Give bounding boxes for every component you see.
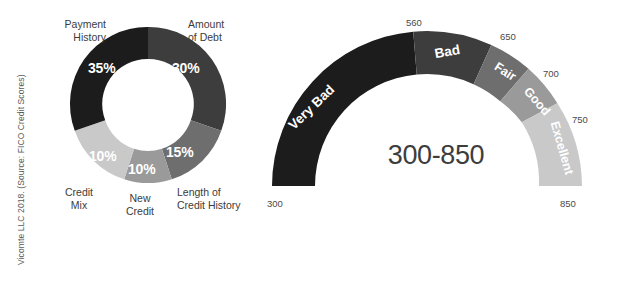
credit-score-range-gauge: Very Bad Bad Fair Good Excellent 300-850… xyxy=(255,0,618,240)
donut-percent-amount-of-debt: 30% xyxy=(172,60,199,76)
gauge-center-value: 300-850 xyxy=(341,140,531,171)
donut-percent-payment-history: 35% xyxy=(88,60,115,76)
donut-label-payment-history-line1: Payment xyxy=(14,18,106,31)
donut-label-credit-mix: Credit Mix xyxy=(48,186,110,211)
donut-percent-credit-mix: 10% xyxy=(89,148,116,164)
donut-percent-new-credit: 10% xyxy=(128,161,155,177)
donut-percent-length-of-credit-history: 15% xyxy=(166,144,193,160)
gauge-tick-850: 850 xyxy=(560,198,576,209)
donut-label-credit-mix-line2: Mix xyxy=(48,199,110,212)
donut-label-new-credit-line2: Credit xyxy=(111,205,169,218)
gauge-tick-700: 700 xyxy=(543,68,559,79)
infographic-canvas: Vicomte LLC 2018. (Source: FICO Credit S… xyxy=(0,0,618,285)
gauge-tick-560: 560 xyxy=(406,17,422,28)
donut-label-payment-history: Payment History xyxy=(14,18,106,43)
gauge-tick-750: 750 xyxy=(572,114,588,125)
gauge-tick-650: 650 xyxy=(500,31,516,42)
donut-label-credit-mix-line1: Credit xyxy=(48,186,110,199)
donut-label-payment-history-line2: History xyxy=(14,31,106,44)
donut-label-new-credit: New Credit xyxy=(111,192,169,217)
donut-label-new-credit-line1: New xyxy=(111,192,169,205)
gauge-tick-300: 300 xyxy=(267,198,283,209)
